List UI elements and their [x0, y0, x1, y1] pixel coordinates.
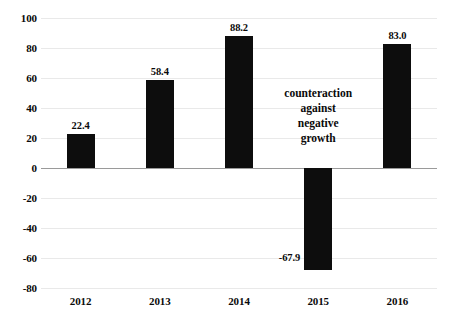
x-axis-tick-label: 2012 — [70, 296, 92, 307]
bar-value-label: -67.9 — [279, 253, 300, 264]
y-axis-tick-label: 40 — [1, 103, 37, 114]
gridline — [41, 258, 437, 259]
y-axis-tick-label: -20 — [1, 193, 37, 204]
bar-value-label: 88.2 — [230, 22, 248, 33]
x-axis-tick-label: 2016 — [387, 296, 409, 307]
bar[interactable] — [225, 36, 253, 168]
plot-area: 22.458.488.2-67.983.0 — [41, 18, 437, 288]
y-axis-tick-label: 80 — [1, 43, 37, 54]
x-axis-tick-label: 2013 — [149, 296, 171, 307]
counteraction-note: counteractionagainstnegativegrowth — [284, 86, 352, 146]
y-axis-tick-label: -80 — [1, 283, 37, 294]
annotation-line: counteraction — [284, 86, 352, 101]
annotation-line: against — [284, 101, 352, 116]
y-axis-tick-label: 60 — [1, 73, 37, 84]
y-axis-tick-label: -40 — [1, 223, 37, 234]
y-axis-tick-label: 20 — [1, 133, 37, 144]
y-axis-tick-label: -60 — [1, 253, 37, 264]
annotation-line: growth — [284, 131, 352, 146]
bar-value-label: 83.0 — [388, 30, 406, 41]
bar-value-label: 22.4 — [72, 121, 90, 132]
gridline — [41, 18, 437, 19]
gridline — [41, 288, 437, 289]
gridline — [41, 228, 437, 229]
x-axis-tick-label: 2014 — [228, 296, 250, 307]
y-axis-labels: 100806040200-20-40-60-80 — [0, 18, 37, 288]
bar[interactable] — [304, 168, 332, 270]
gridline — [41, 198, 437, 199]
zero-line — [41, 168, 437, 169]
bar-chart: 100806040200-20-40-60-80 22.458.488.2-67… — [0, 0, 455, 318]
bar[interactable] — [146, 80, 174, 168]
annotation-line: negative — [284, 116, 352, 131]
bar-value-label: 58.4 — [151, 67, 169, 78]
bar[interactable] — [383, 44, 411, 169]
bar[interactable] — [67, 134, 95, 168]
x-axis-tick-label: 2015 — [307, 296, 329, 307]
y-axis-tick-label: 100 — [1, 13, 37, 24]
y-axis-tick-label: 0 — [1, 163, 37, 174]
